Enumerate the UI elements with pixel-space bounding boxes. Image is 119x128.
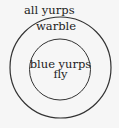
label-fly: fly: [53, 67, 68, 81]
label-all-yurps: all yurps: [24, 3, 75, 17]
euler-diagram: all yurps warble blue yurps fly: [0, 0, 119, 128]
label-warble: warble: [36, 19, 76, 33]
